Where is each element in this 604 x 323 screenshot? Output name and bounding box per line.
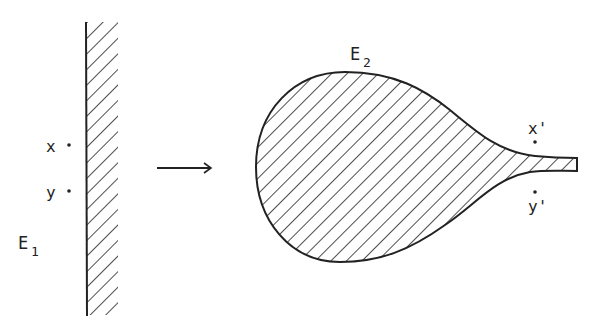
region-e1 <box>86 22 118 316</box>
point-y-prime-label: y' <box>528 197 547 216</box>
label-e1-main: E <box>18 233 28 253</box>
point-y-prime: y' <box>528 190 547 216</box>
label-e1-subscript: 1 <box>31 244 39 259</box>
point-x-prime-label: x' <box>528 119 547 138</box>
label-e2-main: E <box>350 44 360 64</box>
point-x-label: x <box>46 137 56 156</box>
point-x-dot <box>67 143 71 147</box>
boundary-line <box>86 22 87 316</box>
hatched-half-plane <box>86 22 118 315</box>
label-e2-subscript: 2 <box>363 55 371 70</box>
point-y-label: y <box>46 183 56 202</box>
point-y-prime-dot <box>533 190 537 194</box>
label-e1: E 1 <box>18 233 39 259</box>
region-e2 <box>256 72 577 262</box>
point-y-dot <box>67 189 71 193</box>
point-y: y <box>46 183 71 202</box>
point-x-prime: x' <box>528 119 547 144</box>
mapping-diagram: x y E 1 E 2 x' y' <box>0 0 604 323</box>
label-e2: E 2 <box>350 44 371 70</box>
point-x-prime-dot <box>533 140 537 144</box>
point-x: x <box>46 137 71 156</box>
arrow-right-icon <box>157 163 211 173</box>
teardrop-region <box>256 72 577 262</box>
